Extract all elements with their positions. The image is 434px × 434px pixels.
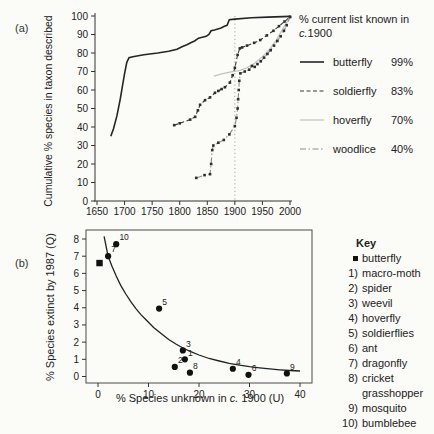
- svg-text:4: 4: [73, 302, 79, 313]
- svg-text:30: 30: [77, 140, 89, 151]
- svg-text:1800: 1800: [169, 206, 192, 217]
- svg-text:60: 60: [77, 85, 89, 96]
- figure: 0102030405060708090100165017001750180018…: [0, 0, 434, 434]
- point-butterfly: [96, 260, 102, 266]
- key-item: 9) mosquito: [336, 401, 433, 416]
- key-item-butterfly: butterfly: [336, 251, 433, 266]
- butterfly-square-icon: [336, 251, 358, 266]
- svg-text:2000: 2000: [279, 206, 302, 217]
- svg-text:0: 0: [73, 371, 79, 382]
- point-ant: [245, 372, 251, 378]
- panel-a-y-axis-label: Cumulative % species in taxon described: [42, 5, 54, 217]
- point-bumblebee: [113, 241, 119, 247]
- svg-text:1650: 1650: [86, 206, 109, 217]
- legend-title-year: 1900: [308, 27, 332, 39]
- svg-text:1: 1: [73, 354, 79, 365]
- legend-title-circa: c.: [299, 27, 308, 39]
- svg-text:6: 6: [252, 363, 257, 373]
- point-soldierflies: [156, 306, 162, 312]
- svg-text:8: 8: [73, 234, 79, 245]
- series-butterfly: [111, 16, 290, 136]
- legend-title: % current list known in c.1900: [299, 12, 431, 40]
- key-item: 1) macro-moth: [336, 266, 433, 281]
- point-cricket grasshopper: [187, 370, 193, 376]
- key-title: Key: [336, 236, 433, 251]
- key-item: 6) ant: [336, 341, 433, 356]
- panel-b-x-axis-label: % Species unknown in c. 1900 (U): [90, 392, 310, 404]
- svg-text:6: 6: [73, 268, 79, 279]
- point-mosquito: [284, 370, 290, 376]
- legend-line-woodlice-icon: [299, 145, 325, 153]
- panel-b-key: Key butterfly 1) macro-moth 2) spider 3)…: [336, 236, 433, 431]
- svg-text:5: 5: [73, 285, 79, 296]
- legend-row-hoverfly: hoverfly 70%: [299, 113, 431, 127]
- svg-text:1: 1: [188, 348, 193, 358]
- svg-text:40: 40: [77, 122, 89, 133]
- legend-value: 83%: [391, 85, 413, 97]
- legend-row-woodlice: woodlice 40%: [299, 142, 431, 156]
- key-item: 5) soldierflies: [336, 326, 433, 341]
- legend-label: woodlice: [333, 143, 391, 155]
- panel-b-y-axis-label: % Species extinct by 1987 (Q): [44, 225, 56, 389]
- svg-text:1750: 1750: [141, 206, 164, 217]
- legend-row-butterfly: butterfly 99%: [299, 55, 431, 69]
- key-item: 10) bumblebee: [336, 416, 433, 431]
- svg-text:50: 50: [77, 103, 89, 114]
- key-item: 4) hoverfly: [336, 311, 433, 326]
- xlabel-circa: c.: [230, 392, 239, 404]
- legend-label: soldierfly: [333, 85, 391, 97]
- svg-text:8: 8: [193, 361, 198, 371]
- key-item: 7) dragonfly: [336, 356, 433, 371]
- panel-a-legend: % current list known in c.1900 butterfly…: [299, 12, 431, 156]
- legend-line-soldierfly-icon: [299, 87, 325, 95]
- svg-text:20: 20: [77, 159, 89, 170]
- legend-line-hoverfly-icon: [299, 116, 325, 124]
- svg-text:1700: 1700: [113, 206, 136, 217]
- legend-value: 40%: [391, 143, 413, 155]
- svg-text:2: 2: [73, 337, 79, 348]
- svg-text:2: 2: [178, 355, 183, 365]
- point-weevil: [180, 347, 186, 353]
- panel-a-label: (a): [15, 22, 28, 34]
- xlabel-pre: % Species unknown in: [116, 392, 230, 404]
- svg-text:3: 3: [186, 339, 191, 349]
- svg-text:1850: 1850: [196, 206, 219, 217]
- svg-text:80: 80: [77, 48, 89, 59]
- svg-text:3: 3: [73, 319, 79, 330]
- legend-title-line1: % current list known in: [299, 13, 409, 25]
- key-item: 2) spider: [336, 281, 433, 296]
- svg-text:0: 0: [82, 196, 88, 207]
- legend-label: butterfly: [333, 56, 391, 68]
- svg-text:70: 70: [77, 66, 89, 77]
- svg-text:90: 90: [77, 29, 89, 40]
- key-item: 8) cricket grasshopper: [336, 371, 433, 401]
- svg-text:4: 4: [236, 357, 241, 367]
- legend-line-butterfly-icon: [299, 58, 325, 66]
- svg-text:1900: 1900: [224, 206, 247, 217]
- fitted-curve: [104, 236, 300, 371]
- svg-text:5: 5: [162, 297, 167, 307]
- svg-text:1950: 1950: [251, 206, 274, 217]
- svg-text:7: 7: [73, 251, 79, 262]
- point-dragonfly: [105, 253, 111, 259]
- legend-row-soldierfly: soldierfly 83%: [299, 84, 431, 98]
- panel-b-frame: [86, 230, 312, 383]
- series-soldierfly: [174, 17, 290, 125]
- point-hoverfly: [230, 366, 236, 372]
- key-item: 3) weevil: [336, 296, 433, 311]
- legend-value: 70%: [391, 114, 413, 126]
- point-spider: [172, 364, 178, 370]
- legend-label: hoverfly: [333, 114, 391, 126]
- svg-text:9: 9: [290, 362, 295, 372]
- svg-text:100: 100: [71, 11, 88, 22]
- legend-value: 99%: [391, 56, 413, 68]
- svg-text:10: 10: [77, 177, 89, 188]
- xlabel-post: 1900 (U): [238, 392, 284, 404]
- svg-text:10: 10: [119, 232, 129, 242]
- panel-b-label: (b): [15, 257, 28, 269]
